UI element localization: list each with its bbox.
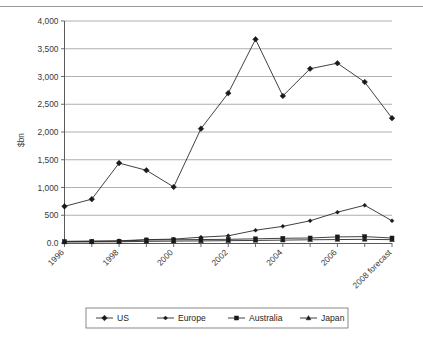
- x-axis-tick-labels: 1996199820002002200420062008 forecast: [46, 247, 394, 290]
- series-us: [62, 37, 395, 210]
- data-point: [235, 316, 239, 320]
- x-tick-label: 2004: [264, 247, 284, 267]
- y-tick-label: 0.0: [47, 238, 59, 248]
- x-tick-label: 1996: [46, 247, 66, 267]
- data-series-group: [62, 37, 395, 244]
- x-tick-label: 2008 forecast: [350, 247, 393, 290]
- x-tick-label: 2000: [155, 247, 175, 267]
- line-chart: 0.05001,0001,5002,0002,5003,0003,5004,00…: [0, 0, 423, 339]
- legend-item-europe[interactable]: Europe: [157, 313, 206, 323]
- y-axis-ticks: [61, 21, 65, 243]
- data-point: [171, 184, 177, 190]
- y-tick-label: 2,000: [38, 127, 59, 137]
- y-tick-label: 3,500: [38, 44, 59, 54]
- legend-item-japan[interactable]: Japan: [300, 313, 345, 323]
- y-axis-title: $bn: [16, 133, 26, 147]
- data-point: [164, 316, 168, 320]
- x-tick-label: 1998: [100, 247, 120, 267]
- y-axis-tick-labels: 0.05001,0001,5002,0002,5003,0003,5004,00…: [38, 16, 59, 248]
- gridlines: [65, 21, 393, 215]
- y-tick-label: 2,500: [38, 99, 59, 109]
- y-tick-label: 3,000: [38, 72, 59, 82]
- y-tick-label: 1,500: [38, 155, 59, 165]
- legend-label: Japan: [321, 313, 345, 323]
- data-point: [363, 203, 367, 207]
- series-line: [65, 39, 393, 206]
- data-point: [62, 204, 68, 210]
- legend-label: Australia: [249, 313, 283, 323]
- data-point: [281, 224, 285, 228]
- data-point: [308, 219, 312, 223]
- data-point: [253, 37, 259, 43]
- y-tick-label: 4,000: [38, 16, 59, 26]
- data-point: [144, 167, 150, 173]
- y-tick-label: 500: [45, 210, 59, 220]
- data-point: [335, 210, 339, 214]
- legend-item-australia[interactable]: Australia: [228, 313, 283, 323]
- data-point: [390, 219, 394, 223]
- legend-item-us[interactable]: US: [96, 313, 129, 323]
- legend-label: Europe: [178, 313, 206, 323]
- y-tick-label: 1,000: [38, 183, 59, 193]
- legend-label: US: [117, 313, 129, 323]
- chart-legend: USEuropeAustraliaJapan: [86, 308, 348, 328]
- data-point: [102, 315, 108, 321]
- data-point: [254, 228, 258, 232]
- series-japan: [62, 237, 394, 244]
- data-point: [335, 60, 341, 66]
- x-tick-label: 2002: [209, 247, 229, 267]
- x-tick-label: 2006: [319, 247, 339, 267]
